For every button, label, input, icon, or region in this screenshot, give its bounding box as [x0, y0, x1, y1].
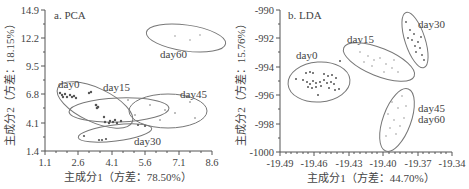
lda-label-day0: day0 [296, 49, 318, 61]
pca-x-axis-label: 主成分1（方差：78.50%） [64, 170, 191, 183]
pca-title: a. PCA [54, 9, 86, 21]
pca-label-day60: day60 [160, 48, 187, 60]
lda-xtick: -19.49 [266, 158, 293, 169]
pca-label-day15: day15 [103, 81, 130, 93]
lda-ytick: -996 [255, 90, 274, 101]
lda-ytick: -992 [255, 33, 274, 44]
pca-ytick: 6.8 [26, 89, 39, 100]
lda-xtick: -19.37 [404, 158, 431, 169]
pca-xtick: 7.1 [172, 157, 185, 168]
pca-xtick: 1.1 [38, 157, 51, 168]
lda-ytick: -990 [255, 5, 274, 16]
lda-x-axis-label: 主成分1（方差：44.70%） [307, 171, 434, 184]
pca-points-day60 [174, 34, 201, 41]
pca-xtick: 8.6 [205, 157, 218, 168]
lda-ytick: -1000 [250, 147, 275, 158]
lda-panel: -990 -992 -994 -996 -998 -1000 -19.49 -1… [234, 5, 466, 184]
lda-ellipse-day45-day60 [373, 84, 422, 156]
lda-points-day45-day60 [385, 95, 407, 137]
pca-panel: 14.9 12.2 9.5 6.8 4.1 1.4 1.1 2.6 4.1 5.… [3, 5, 227, 183]
pca-points-day0 [59, 91, 92, 99]
pca-ytick: 14.9 [21, 5, 39, 16]
pca-y-axis-label: 主成分2（方差：18.15%） [3, 18, 16, 145]
lda-ytick: -998 [255, 119, 274, 130]
pca-label-day30: day30 [134, 135, 161, 147]
pca-ytick: 4.1 [26, 118, 39, 129]
lda-label-day60: day60 [418, 113, 445, 125]
lda-xtick: -19.40 [369, 158, 396, 169]
lda-label-day30: day30 [418, 18, 445, 30]
pca-label-day0: day0 [58, 78, 80, 90]
lda-xtick: -19.34 [438, 158, 466, 169]
lda-title: b. LDA [288, 9, 322, 21]
pca-ellipse-day15 [69, 96, 170, 123]
pca-label-day45: day45 [180, 88, 207, 100]
pca-xtick: 2.6 [71, 157, 84, 168]
pca-ytick: 1.4 [26, 146, 40, 157]
lda-label-day15: day15 [347, 33, 374, 45]
lda-points-day15 [359, 51, 399, 73]
lda-ytick: -994 [255, 62, 275, 73]
pca-ytick: 12.2 [21, 33, 39, 44]
pca-points-day15 [95, 104, 117, 123]
pca-xtick: 4.1 [105, 157, 118, 168]
lda-xtick: -19.46 [300, 158, 327, 169]
pca-ytick: 9.5 [26, 61, 39, 72]
pca-xtick: 5.6 [138, 157, 151, 168]
lda-y-axis-label: 主成分2（方差：15.76%） [234, 18, 247, 145]
lda-xtick: -19.43 [335, 158, 362, 169]
